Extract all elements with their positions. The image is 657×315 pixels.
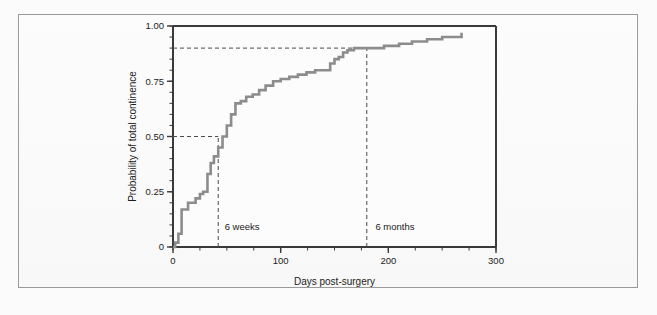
survival-curve-chart: 00.250.500.751.000100200300 Days post-su…: [0, 0, 657, 315]
y-axis-tick-label: 1.00: [146, 20, 165, 31]
x-axis-tick-label: 300: [488, 255, 504, 266]
x-axis-tick-label: 100: [273, 255, 289, 266]
y-axis-tick-label: 0.25: [146, 186, 165, 197]
y-axis-title: Probability of total continence: [127, 71, 138, 202]
x-axis-tick-label: 0: [170, 255, 175, 266]
figure-root: 00.250.500.751.000100200300 Days post-su…: [0, 0, 657, 315]
x-axis-title: Days post-surgery: [294, 276, 375, 287]
y-axis-tick-label: 0.75: [146, 76, 165, 87]
y-axis-tick-label: 0.50: [146, 131, 165, 142]
y-axis-tick-label: 0: [159, 241, 164, 252]
annotation-label: 6 weeks: [225, 221, 260, 232]
annotation-label: 6 months: [375, 221, 414, 232]
x-axis-tick-label: 200: [380, 255, 396, 266]
